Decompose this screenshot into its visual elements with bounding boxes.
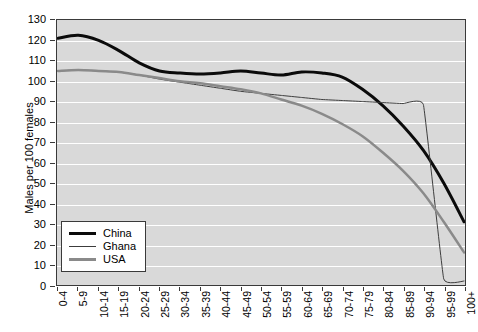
y-axis-title: Males per 100 females [23,73,35,243]
y-tick-label: 110 [28,54,46,66]
y-tick-mark [50,224,55,225]
y-tick-mark [50,81,55,82]
legend-label-ghana: Ghana [103,240,136,253]
x-tick-label: 25-29 [159,291,171,318]
legend-item-china: China [69,227,136,240]
usa-line-swatch [69,253,96,266]
x-tick: 65-69 [315,287,329,331]
y-tick-mark [50,19,55,20]
x-tick-label: 5-9 [77,291,89,306]
x-tick: 15-19 [111,287,125,331]
x-tick-label: 45-49 [241,291,253,318]
x-tick-label: 30-34 [179,291,191,318]
y-tick-label: 20 [34,239,46,251]
y-tick-mark [50,60,55,61]
x-tick: 60-64 [295,287,309,331]
x-tick-label: 95-99 [445,291,457,318]
y-tick-mark [50,265,55,266]
x-tick: 5-9 [70,287,84,331]
x-tick: 75-79 [356,287,370,331]
legend-label-china: China [103,227,132,240]
y-tick-label: 130 [28,13,46,25]
y-tick-mark [50,204,55,205]
x-tick-label: 20-24 [139,291,151,318]
y-tick-label: 80 [34,116,46,128]
x-tick-label: 80-84 [383,291,395,318]
x-tick-label: 100+ [465,291,477,315]
x-tick: 10-14 [91,287,105,331]
x-tick: 100+ [458,287,472,331]
legend-item-usa: USA [69,253,136,266]
y-tick-label: 60 [34,157,46,169]
x-tick: 50-54 [254,287,268,331]
y-tick-mark [50,163,55,164]
chart-legend: China Ghana USA [61,221,146,272]
china-line-swatch [69,227,96,240]
x-tick: 55-59 [274,287,288,331]
x-tick: 40-44 [213,287,227,331]
x-tick: 30-34 [172,287,186,331]
y-tick-label: 70 [34,136,46,148]
x-tick-label: 75-79 [363,291,375,318]
x-tick: 80-84 [376,287,390,331]
x-tick-label: 0-4 [57,291,69,306]
x-axis: 0-45-910-1415-1920-2425-2930-3435-3940-4… [0,287,478,332]
x-tick-label: 10-14 [98,291,110,318]
x-tick-label: 65-69 [322,291,334,318]
x-tick: 70-74 [336,287,350,331]
y-tick-mark [50,142,55,143]
x-tick-label: 15-19 [118,291,130,318]
y-tick-label: 30 [34,218,46,230]
y-tick-label: 40 [34,198,46,210]
y-tick-mark [50,101,55,102]
x-tick-label: 90-94 [424,291,436,318]
legend-label-usa: USA [103,253,126,266]
y-tick-label: 50 [34,177,46,189]
x-tick-label: 85-89 [404,291,416,318]
y-tick-label: 10 [34,259,46,271]
series-line-china [58,35,464,222]
y-tick-label: 90 [34,95,46,107]
males-per-100-females-line-chart: 0102030405060708090100110120130 Males pe… [0,0,478,332]
x-tick: 95-99 [438,287,452,331]
x-tick-label: 55-59 [281,291,293,318]
x-tick: 35-39 [193,287,207,331]
x-tick: 20-24 [132,287,146,331]
x-tick-label: 70-74 [343,291,355,318]
x-tick: 25-29 [152,287,166,331]
x-tick: 0-4 [50,287,64,331]
x-tick-label: 40-44 [220,291,232,318]
y-tick-mark [50,122,55,123]
x-tick: 45-49 [234,287,248,331]
x-tick-label: 35-39 [200,291,212,318]
x-tick-label: 50-54 [261,291,273,318]
x-tick-label: 60-64 [302,291,314,318]
y-tick-mark [50,245,55,246]
y-tick-mark [50,183,55,184]
x-tick: 90-94 [417,287,431,331]
y-tick-mark [50,40,55,41]
ghana-line-swatch [69,240,96,253]
y-tick-label: 120 [28,34,46,46]
legend-item-ghana: Ghana [69,240,136,253]
x-tick: 85-89 [397,287,411,331]
